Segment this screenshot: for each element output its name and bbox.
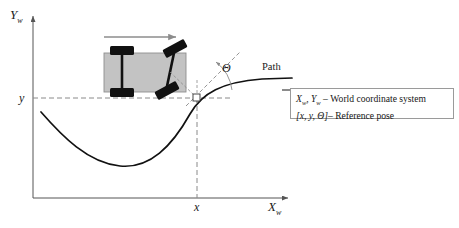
x-tick-label: x [194, 201, 199, 213]
legend-box: Xw, Yw – World coordinate system [x, y, … [290, 88, 454, 119]
legend-description-1: World coordinate system [330, 93, 426, 104]
legend-row: [x, y, Θ]– Reference pose [296, 109, 453, 122]
legend-pose-symbol: [x, y, Θ] [296, 110, 328, 121]
legend-row: Xw, Yw – World coordinate system [296, 92, 453, 109]
rear-right-wheel [110, 88, 134, 97]
x-axis-label: Xw [268, 200, 281, 217]
theta-label: Θ [222, 62, 231, 74]
x-axis-label-subscript: w [276, 208, 281, 217]
y-axis-label: Yw [10, 8, 23, 25]
reference-pose-marker [193, 94, 200, 101]
path-label: Path [262, 62, 281, 73]
x-axis-label-main: X [268, 199, 276, 214]
rear-left-wheel [110, 46, 134, 55]
figure-canvas: Yw Xw y x Θ Path Xw, Yw – World coordina… [0, 0, 459, 228]
y-axis-label-subscript: w [17, 16, 22, 25]
y-tick-label: y [19, 92, 24, 104]
legend-description-2: Reference pose [335, 110, 394, 121]
